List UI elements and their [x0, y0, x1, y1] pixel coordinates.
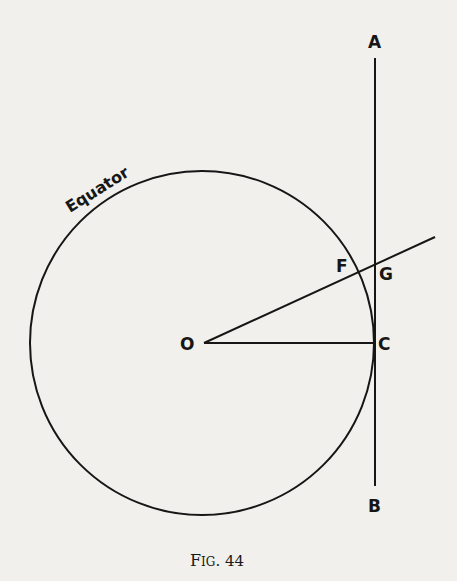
label-f: F [336, 256, 348, 276]
label-b: B [368, 496, 381, 516]
figure-44-diagram: A B C F G O Equator FIG. 44 [0, 0, 457, 581]
label-o: O [180, 334, 194, 354]
line-ofg [204, 237, 435, 343]
label-c: C [378, 334, 390, 354]
label-g: G [379, 264, 393, 284]
label-a: A [368, 32, 382, 52]
label-equator: Equator [62, 163, 132, 217]
figure-caption: FIG. 44 [190, 551, 244, 570]
